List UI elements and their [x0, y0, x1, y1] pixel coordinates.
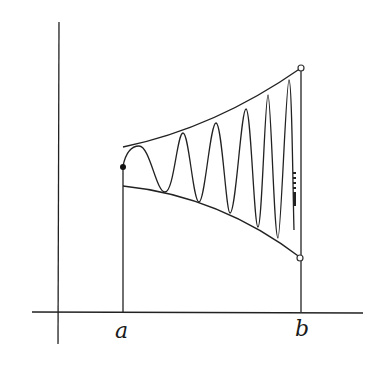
lower-endpoint-open-circle — [297, 255, 303, 261]
upper-endpoint-open-circle — [298, 65, 304, 71]
dotted-continuation — [293, 172, 296, 206]
diagram-svg — [0, 0, 381, 366]
x-axis — [32, 312, 363, 313]
diagram-canvas: a b — [0, 0, 381, 366]
label-b: b — [295, 318, 309, 340]
start-point-dot — [120, 164, 126, 170]
y-axis — [58, 22, 59, 344]
oscillating-curve — [123, 80, 294, 238]
label-a: a — [115, 320, 128, 342]
